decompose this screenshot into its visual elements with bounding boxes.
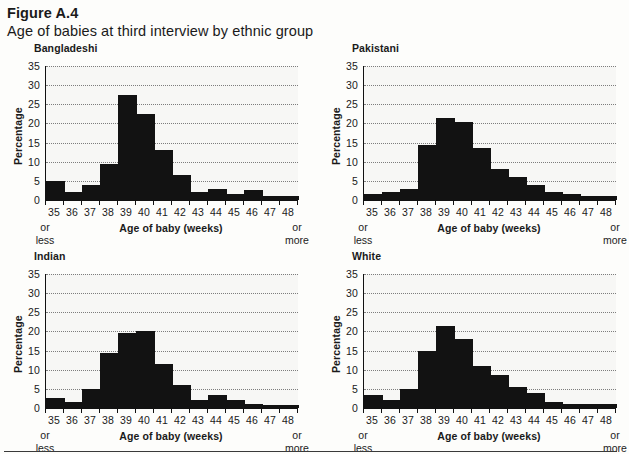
bar: [472, 148, 491, 200]
y-axis-ticks: 05101520253035: [0, 264, 40, 408]
y-tick-label: 25: [24, 307, 40, 317]
x-axis-right-note-line2: more: [601, 443, 629, 454]
x-tick-mark: [399, 409, 400, 413]
y-axis-ticks: 05101520253035: [318, 56, 358, 200]
x-axis-left-note-line2: less: [31, 443, 59, 454]
bar: [418, 145, 437, 201]
x-tick-mark: [99, 201, 100, 205]
x-tick-mark: [417, 201, 418, 205]
y-tick-label: 15: [342, 346, 358, 356]
bar: [244, 190, 263, 200]
x-tick-label: 48: [591, 415, 621, 426]
x-tick-mark: [225, 409, 226, 413]
x-tick-mark: [225, 201, 226, 205]
x-axis-left-note-line2: less: [349, 235, 377, 246]
bar-series: [46, 274, 298, 408]
y-tick-label: 35: [342, 269, 358, 279]
x-tick-mark: [189, 201, 190, 205]
x-tick-mark: [261, 201, 262, 205]
x-axis-right-note-line2: more: [283, 235, 311, 246]
bar: [226, 400, 245, 408]
y-tick-label: 25: [342, 99, 358, 109]
x-tick-mark: [171, 201, 172, 205]
panel-title: Pakistani: [352, 42, 399, 54]
x-tick-mark: [243, 409, 244, 413]
x-tick-mark: [507, 409, 508, 413]
bar: [580, 404, 599, 408]
y-tick-label: 0: [342, 403, 358, 413]
plot-canvas: [45, 66, 298, 201]
x-axis-left-note-line2: less: [349, 443, 377, 454]
y-tick-label: 30: [342, 80, 358, 90]
bar: [64, 192, 83, 200]
bar: [580, 196, 599, 200]
bar: [454, 122, 473, 200]
x-tick-mark: [117, 409, 118, 413]
x-tick-mark: [561, 409, 562, 413]
x-tick-label: 48: [273, 415, 303, 426]
y-tick-label: 20: [342, 326, 358, 336]
bar: [562, 194, 581, 200]
x-tick-mark: [597, 409, 598, 413]
bar: [190, 192, 209, 200]
x-tick-mark: [117, 201, 118, 205]
y-tick-label: 0: [24, 403, 40, 413]
bar: [154, 364, 173, 408]
bar: [418, 351, 437, 408]
bar: [526, 393, 545, 408]
bar: [136, 331, 155, 408]
bar: [400, 389, 419, 408]
bar: [382, 400, 401, 408]
x-tick-label: 48: [591, 207, 621, 218]
y-tick-label: 10: [342, 365, 358, 375]
y-tick-label: 35: [342, 61, 358, 71]
bar: [64, 402, 83, 408]
x-tick-mark: [615, 201, 616, 205]
bar: [208, 189, 227, 200]
panel-white: White Percentage051015202530353536373839…: [318, 250, 621, 446]
bar: [262, 405, 281, 408]
y-tick-label: 35: [24, 61, 40, 71]
y-tick-label: 5: [342, 384, 358, 394]
x-tick-mark: [45, 201, 46, 205]
x-tick-mark: [45, 409, 46, 413]
bar: [82, 389, 101, 408]
bar: [136, 114, 155, 200]
x-tick-mark: [279, 201, 280, 205]
bar: [436, 326, 455, 408]
x-tick-mark: [525, 201, 526, 205]
y-tick-label: 30: [24, 80, 40, 90]
panel-indian: Indian Percentage05101520253035353637383…: [0, 250, 318, 446]
x-tick-mark: [435, 409, 436, 413]
bar: [490, 375, 509, 408]
x-tick-mark: [153, 201, 154, 205]
x-axis-title: Age of baby (weeks): [45, 222, 297, 234]
x-tick-label: 48: [273, 207, 303, 218]
plot-canvas: [45, 274, 298, 409]
y-tick-label: 0: [24, 195, 40, 205]
panel-pakistani: Pakistani Percentage05101520253035353637…: [318, 42, 621, 250]
x-tick-mark: [81, 201, 82, 205]
x-tick-mark: [417, 409, 418, 413]
bar-series: [364, 274, 616, 408]
y-tick-label: 25: [24, 99, 40, 109]
panel-title: White: [352, 250, 381, 262]
bar-series: [46, 66, 298, 200]
y-tick-label: 5: [24, 176, 40, 186]
x-tick-mark: [471, 409, 472, 413]
x-tick-mark: [453, 409, 454, 413]
bar-series: [364, 66, 616, 200]
bar: [190, 400, 209, 408]
x-axis-right-note-line2: more: [601, 235, 629, 246]
x-tick-mark: [489, 409, 490, 413]
figure-title: Age of babies at third interview by ethn…: [7, 22, 621, 40]
x-tick-mark: [363, 201, 364, 205]
y-tick-label: 25: [342, 307, 358, 317]
bar: [382, 192, 401, 200]
x-tick-mark: [399, 201, 400, 205]
bar: [598, 196, 617, 200]
x-tick-mark: [63, 201, 64, 205]
bar: [436, 118, 455, 200]
bar: [508, 177, 527, 200]
bar: [172, 175, 191, 200]
